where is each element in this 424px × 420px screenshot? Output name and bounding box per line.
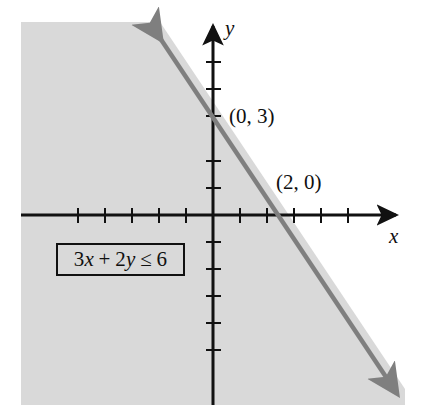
y-intercept-point-label: (0, 3) xyxy=(229,106,275,127)
y-axis-label: y xyxy=(225,18,234,39)
inequality-graph-figure: (0, 3) (2, 0) x y 3x + 2y ≤ 6 xyxy=(0,0,424,420)
graph-canvas xyxy=(0,0,424,420)
inequality-expression: 3x + 2y ≤ 6 xyxy=(74,247,168,272)
variable-x: x xyxy=(84,247,94,271)
plus-operator: + xyxy=(99,247,111,271)
coefficient-y: 2 xyxy=(115,247,126,271)
constant-term: 6 xyxy=(157,247,168,271)
coefficient-x: 3 xyxy=(74,247,85,271)
x-axis-label: x xyxy=(389,226,398,247)
relation-operator: ≤ xyxy=(140,247,152,271)
inequality-label-box: 3x + 2y ≤ 6 xyxy=(56,243,185,276)
x-intercept-point-label: (2, 0) xyxy=(276,172,322,193)
variable-y: y xyxy=(126,247,136,271)
